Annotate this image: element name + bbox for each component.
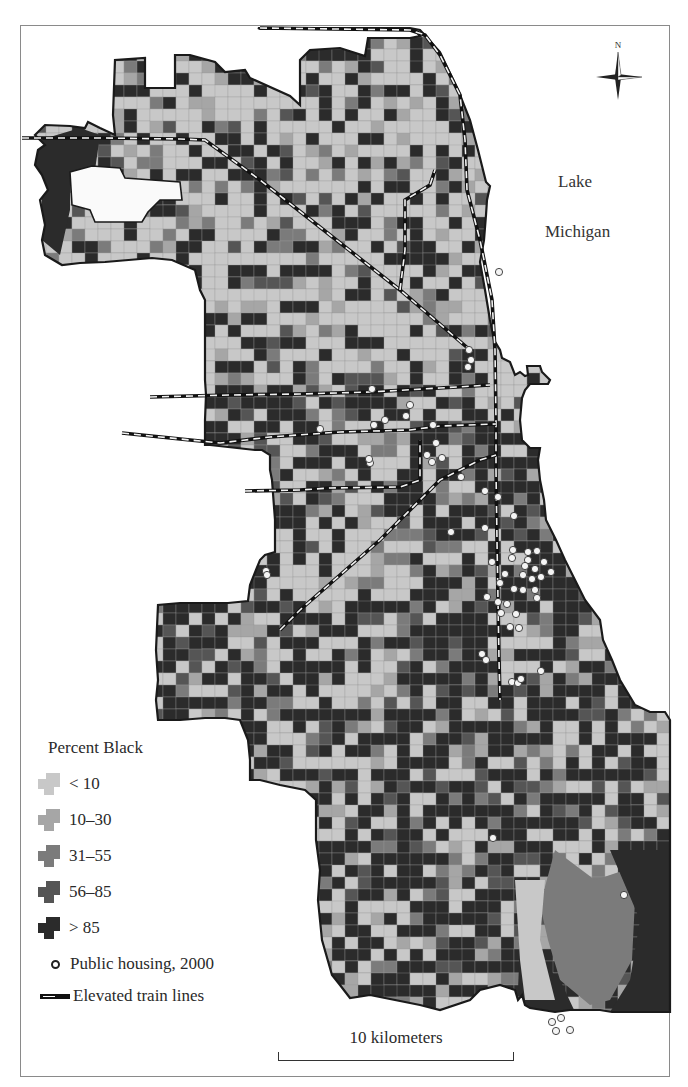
tract-swatch-icon [38,917,62,939]
legend-item-category: > 85 [38,910,268,946]
legend-item-train: Elevated train lines [38,982,268,1010]
legend-item-public-housing: Public housing, 2000 [38,946,268,982]
public-housing-circle-icon [51,960,60,969]
compass-star-icon [592,40,644,106]
legend-item-category: 31–55 [38,838,268,874]
scale-label: 10 kilometers [278,1028,514,1048]
legend-label-category: 56–85 [69,882,112,902]
lake-label-line1: Lake [558,172,592,192]
legend-label-category: > 85 [69,918,100,938]
legend-label-category: 10–30 [69,810,112,830]
legend-item-category: 10–30 [38,802,268,838]
legend-label-category: 31–55 [69,846,112,866]
tract-swatch-icon [38,881,62,903]
scale-bar: 10 kilometers [278,1028,514,1061]
legend-item-category: < 10 [38,766,268,802]
legend: Percent Black < 10 10–30 31–55 56–85 [38,738,268,1010]
legend-label-category: < 10 [69,774,100,794]
tract-swatch-icon [38,773,62,795]
lake-label-line2: Michigan [545,222,610,242]
tract-swatch-icon [38,809,62,831]
train-line-icon [40,994,70,999]
tract-swatch-icon [38,845,62,867]
legend-title: Percent Black [48,738,268,758]
legend-label-public-housing: Public housing, 2000 [70,954,214,974]
legend-item-category: 56–85 [38,874,268,910]
compass-rose: N [592,40,644,106]
scale-line [278,1052,514,1061]
legend-label-train: Elevated train lines [73,986,204,1006]
